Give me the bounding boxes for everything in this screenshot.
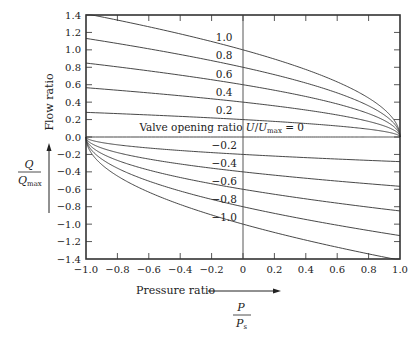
y-tick-label: −0.2 [57, 149, 81, 160]
x-axis-arrowhead [273, 289, 281, 294]
curve-label: −1.0 [211, 211, 237, 223]
x-axis-title: Pressure ratio [136, 284, 216, 297]
x-tick-label: 0 [240, 264, 246, 275]
x-tick-label: 0.8 [361, 264, 377, 275]
y-tick-label: −1.0 [57, 219, 81, 230]
y-tick-label: 1.2 [65, 27, 81, 38]
y-tick-label: 1.4 [65, 10, 81, 21]
x-tick-label: 0.4 [298, 264, 314, 275]
curve-label: 0.6 [216, 68, 233, 80]
curve-label: 0.8 [216, 49, 233, 61]
curve-label: −0.6 [211, 175, 237, 187]
y-tick-label: 0.4 [65, 97, 81, 108]
y-tick-label: −0.6 [57, 184, 81, 195]
y-tick-label: 1.0 [65, 44, 81, 55]
curve-label: 0.2 [216, 104, 233, 116]
y-tick-label: −0.4 [57, 166, 81, 177]
x-tick-label: 0.2 [266, 264, 282, 275]
zero-curve-label: Valve opening ratio U/Umax = 0 [138, 121, 304, 135]
x-tick-label: −0.2 [199, 264, 223, 275]
y-tick-label: −1.4 [57, 254, 81, 265]
y-tick-label: −0.8 [57, 201, 81, 212]
y-fraction-denominator: Qmax [18, 174, 42, 188]
curve-label: 1.0 [216, 31, 233, 43]
curve-label: −0.4 [211, 157, 237, 169]
y-tick-label: 0.0 [65, 132, 81, 143]
curve-label: −0.8 [211, 193, 237, 205]
curve-label: 0.4 [216, 86, 233, 98]
y-axis-title: Flow ratio [43, 73, 56, 130]
x-fraction-denominator: Ps [235, 317, 247, 331]
x-tick-label: −0.4 [168, 264, 192, 275]
y-axis-arrowhead [47, 143, 52, 151]
y-tick-label: 0.6 [65, 79, 81, 90]
y-fraction-numerator: Q [24, 158, 33, 171]
chart: −1.0−0.8−0.6−0.4−0.200.20.40.60.81.01.41… [0, 0, 418, 337]
curve-label: −0.2 [211, 139, 237, 151]
x-tick-label: 0.6 [329, 264, 345, 275]
x-tick-label: −0.8 [105, 264, 129, 275]
x-tick-label: −0.6 [137, 264, 161, 275]
x-fraction-numerator: P [236, 301, 245, 314]
x-tick-label: −1.0 [74, 264, 98, 275]
x-tick-label: 1.0 [392, 264, 408, 275]
y-tick-label: 0.8 [65, 62, 81, 73]
y-tick-label: −1.2 [57, 236, 81, 247]
y-tick-label: 0.2 [65, 114, 81, 125]
